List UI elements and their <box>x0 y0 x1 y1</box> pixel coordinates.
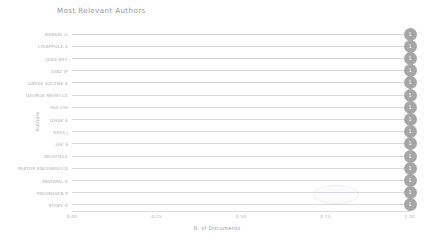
lollipop-marker[interactable]: 1 <box>404 89 417 102</box>
y-axis-tick-label: RAVIZPAL K <box>42 178 68 183</box>
marker-value-label: 1 <box>408 44 411 49</box>
lollipop-stem <box>72 82 410 83</box>
marker-value-label: 1 <box>408 154 411 159</box>
marker-value-label: 1 <box>408 32 411 37</box>
lollipop-stem <box>72 107 410 108</box>
y-axis-tick-label: KEES J <box>54 129 68 134</box>
lollipop-stem <box>72 156 410 157</box>
marker-value-label: 1 <box>408 166 411 171</box>
y-axis-tick-label: LEE S <box>55 141 68 146</box>
y-axis-tick-label: GEORGE NEHEI CE <box>26 93 68 98</box>
y-axis-tick-label: PAKTOR ANGURROO D <box>18 166 68 171</box>
lollipop-stem <box>72 95 410 96</box>
x-axis-title: N. of Documents <box>0 225 434 231</box>
x-axis-tick-labels: 0.000.250.500.751.00 <box>72 214 410 224</box>
marker-value-label: 1 <box>408 93 411 98</box>
lollipop-stem <box>72 192 410 193</box>
marker-value-label: 1 <box>408 129 411 134</box>
lollipop-marker[interactable]: 1 <box>404 137 417 150</box>
plot-area: 111111111111111 <box>72 28 410 211</box>
lollipop-stem <box>72 46 410 47</box>
lollipop-stem <box>72 70 410 71</box>
lollipop-stem <box>72 119 410 120</box>
lollipop-marker[interactable]: 1 <box>404 125 417 138</box>
x-axis-tick-label: 0.50 <box>236 214 246 219</box>
y-axis-tick-label: BANSAL G <box>45 32 68 37</box>
lollipop-marker[interactable]: 1 <box>404 113 417 126</box>
y-axis-tick-label: STOKE Z <box>49 202 68 207</box>
lollipop-marker[interactable]: 1 <box>404 52 417 65</box>
y-axis-tick-label: IZHAK A <box>50 117 68 122</box>
y-axis-title: Authors <box>35 112 40 131</box>
lollipop-marker[interactable]: 1 <box>404 162 417 175</box>
lollipop-stem <box>72 34 410 35</box>
y-axis-tick-label: PREUKOVEN P <box>37 190 68 195</box>
x-axis-tick-label: 0.75 <box>320 214 330 219</box>
y-axis-tick-label: DIAZ JEFF <box>46 56 68 61</box>
x-axis-tick-label: 0.25 <box>151 214 161 219</box>
marker-value-label: 1 <box>408 141 411 146</box>
lollipop-stem <box>72 143 410 144</box>
y-axis-tick-label: CHIAPPOLA V <box>38 44 68 49</box>
chart-container: Most Relevant Authors BANSAL GCHIAPPOLA … <box>0 0 434 239</box>
lollipop-marker[interactable]: 1 <box>404 198 417 211</box>
x-axis-line <box>72 211 410 212</box>
marker-value-label: 1 <box>408 190 411 195</box>
y-axis-tick-label: NICHITELE <box>44 154 68 159</box>
lollipop-marker[interactable]: 1 <box>404 150 417 163</box>
x-axis-tick-label: 1.00 <box>405 214 415 219</box>
lollipop-marker[interactable]: 1 <box>404 64 417 77</box>
lollipop-marker[interactable]: 1 <box>404 76 417 89</box>
y-axis-tick-labels: BANSAL GCHIAPPOLA VDIAZ JEFFDIAZ JPGARZA… <box>0 28 68 211</box>
marker-value-label: 1 <box>408 117 411 122</box>
lollipop-marker[interactable]: 1 <box>404 174 417 187</box>
marker-value-label: 1 <box>408 80 411 85</box>
lollipop-stem <box>72 204 410 205</box>
lollipop-stem <box>72 168 410 169</box>
lollipop-marker[interactable]: 1 <box>404 28 417 41</box>
lollipop-stem <box>72 180 410 181</box>
marker-value-label: 1 <box>408 178 411 183</box>
y-axis-tick-label: GARZA AZCENA A <box>28 80 68 85</box>
lollipop-stem <box>72 58 410 59</box>
lollipop-marker[interactable]: 1 <box>404 40 417 53</box>
x-axis-tick-label: 0.00 <box>67 214 77 219</box>
lollipop-marker[interactable]: 1 <box>404 101 417 114</box>
y-axis-tick-label: HUI CHI <box>51 105 68 110</box>
marker-value-label: 1 <box>408 202 411 207</box>
marker-value-label: 1 <box>408 56 411 61</box>
lollipop-stem <box>72 131 410 132</box>
marker-value-label: 1 <box>408 105 411 110</box>
chart-title: Most Relevant Authors <box>57 6 146 15</box>
y-axis-tick-label: DIAZ JP <box>51 68 68 73</box>
marker-value-label: 1 <box>408 68 411 73</box>
lollipop-marker[interactable]: 1 <box>404 186 417 199</box>
